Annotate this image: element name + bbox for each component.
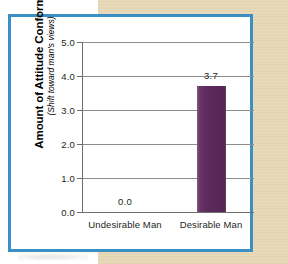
y-axis-tick [77,76,83,77]
x-axis-category-label: Desirable Man [180,219,243,230]
x-axis-category-label: Undesirable Man [88,219,161,230]
gridline [82,212,254,213]
plot-area: 0.03.7 [82,42,254,212]
y-axis-tick-label: 0.0 [31,207,75,218]
bar-value-label: 0.0 [118,196,132,207]
bar [197,86,226,212]
y-axis-tick [77,178,83,179]
y-axis-tick-label: 3.0 [31,105,75,116]
figure-page: Amount of Attitude Conformity (Shift tow… [0,0,288,264]
y-axis-tick [77,42,83,43]
gridline [82,144,254,145]
y-axis-tick-label: 1.0 [31,173,75,184]
page-smudge [18,252,88,262]
y-axis-tick [77,144,83,145]
bar-chart: Amount of Attitude Conformity (Shift tow… [11,17,250,249]
figure-frame: Amount of Attitude Conformity (Shift tow… [8,14,253,252]
y-axis-tick-label: 5.0 [31,37,75,48]
y-axis-tick [77,212,83,213]
gridline [82,42,254,43]
gridline [82,178,254,179]
y-axis-tick-labels: 0.01.02.03.04.05.0 [27,42,75,212]
bar-value-label: 3.7 [204,70,218,81]
y-axis-tick-label: 2.0 [31,139,75,150]
gridline [82,76,254,77]
y-axis-tick-label: 4.0 [31,71,75,82]
x-axis-category-labels: Undesirable ManDesirable Man [82,219,254,235]
y-axis-tick [77,110,83,111]
gridline [82,110,254,111]
